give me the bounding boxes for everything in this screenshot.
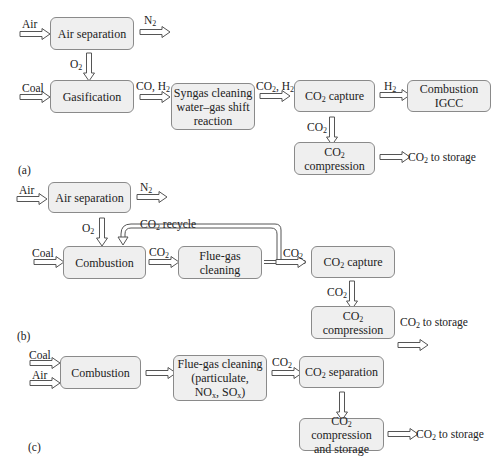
box-co2-capture-b: CO2 capture [311,246,395,278]
box-co2-compression-b: CO2compression [311,306,395,339]
arrow-storage-c [388,429,418,440]
arrow-o2-down-b [97,218,108,246]
label-n2-a: N2 [144,14,156,26]
label-co2-recycle-b: CO2 recycle [140,218,196,230]
recycle-arrowhead [118,237,128,245]
box-co2-compression-storage-c: CO2 compressionand storage [299,418,384,451]
label-n2-b: N2 [140,181,152,193]
box-air-separation-a: Air separation [50,17,134,50]
box-air-separation-b: Air separation [48,182,131,213]
arrow-co2-down-a [327,117,338,145]
label-coal-a: Coal [22,82,44,94]
label-o2-a: O2 [70,58,82,70]
arrow-storage-a [380,152,410,163]
label-co2-h2-a: CO2, H2 [256,80,294,92]
box-co2-compression-a: CO2compression [294,142,375,175]
box-flue-gas-cleaning-c: Flue-gas cleaning(particulate,NOx, SOx) [173,355,267,401]
box-flue-gas-cleaning-b: Flue-gascleaning [178,246,262,279]
panel-label-b: (b) [17,330,30,342]
label-to-storage-b: CO2 to storage [400,316,468,328]
label-air-b: Air [19,184,34,196]
label-h2-a: H2 [384,80,396,92]
box-combustion-c: Combustion [60,356,141,389]
label-air-a: Air [22,18,37,30]
label-air-c: Air [32,369,47,381]
arrow-comb-flue-c [146,368,176,379]
box-co2-capture-a: CO2 capture [294,80,375,112]
label-co-h2-a: CO, H2 [136,80,170,92]
box-co2-separation-c: CO2 separation [299,356,384,388]
box-combustion-b: Combustion [63,246,146,279]
box-combustion-igcc-a: CombustionIGCC [407,80,491,112]
label-to-storage-a: CO2 to storage [408,151,476,163]
arrow-air-in-a [20,29,50,40]
arrow-storage-b [398,340,428,351]
label-o2-b: O2 [82,222,94,234]
label-co2-c: CO2 [272,356,292,368]
label-co2-b: CO2 [149,246,169,258]
box-syngas-cleaning-a: Syngas cleaningwater–gas shiftreaction [171,83,255,130]
label-co2-down-b: CO2 [327,286,347,298]
arrow-o2-down-a [84,53,95,81]
label-to-storage-c: CO2 to storage [416,428,484,440]
arrow-n2-out-a [140,27,170,38]
panel-label-a: (a) [18,164,31,176]
label-co2-capture-b: CO2 [283,247,303,259]
box-gasification-a: Gasification [50,80,134,113]
label-coal-c: Coal [29,349,51,361]
panel-label-c: (c) [28,441,41,453]
label-co2-down-a: CO2 [307,121,327,133]
arrow-co2-down-b [347,281,358,309]
label-coal-b: Coal [32,247,54,259]
